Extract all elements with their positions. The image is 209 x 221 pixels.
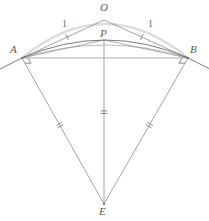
right-angle-mark-a (25, 58, 31, 63)
segment-ob (104, 20, 188, 58)
geometry-diagram: O P A B E 1 1 (0, 0, 209, 221)
point-label-p: P (100, 28, 107, 39)
point-label-a: A (10, 44, 17, 55)
point-label-o: O (100, 2, 108, 13)
segment-ae (22, 58, 104, 204)
segment-oa-length: 1 (62, 19, 67, 29)
right-angle-mark-b (179, 58, 185, 63)
arc-apb (22, 40, 188, 58)
point-label-e: E (99, 206, 106, 217)
segment-ob-length: 1 (148, 19, 153, 29)
congruence-tick-marks (56, 34, 152, 128)
segment-be (104, 58, 188, 204)
vertex-dots (21, 57, 189, 205)
point-label-b: B (190, 44, 197, 55)
